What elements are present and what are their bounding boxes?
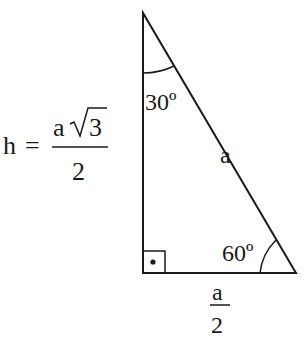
hypotenuse-label: a [220,142,231,168]
angle-arc-60 [260,240,276,273]
formula-h: h [3,131,16,160]
formula-numerator-var: a [53,113,65,142]
triangle-diagram: 30º a 60º a 2 h = a 3 2 [0,0,306,346]
formula-root-value: 3 [89,113,102,142]
base-denominator: 2 [211,312,223,338]
angle-label-30: 30º [145,89,177,115]
angle-label-60: 60º [222,240,254,266]
angle-arc-30 [143,66,174,73]
base-numerator: a [212,279,223,305]
formula-equals: = [25,131,40,160]
right-angle-dot [150,259,155,264]
formula-denominator: 2 [72,157,85,186]
